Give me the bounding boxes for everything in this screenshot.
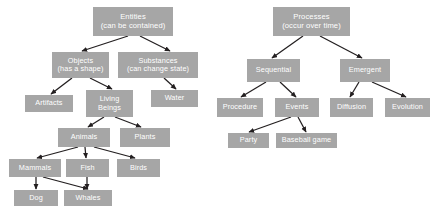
edge-animals-to-fish bbox=[85, 147, 86, 158]
edge-emergent-to-evolution bbox=[372, 82, 406, 97]
node-label-fish: Fish bbox=[66, 164, 109, 172]
node-baseball-game[interactable]: Baseball game bbox=[276, 133, 337, 148]
node-plants[interactable]: Plants bbox=[120, 128, 170, 147]
node-label-line1-emergent: Emergent bbox=[349, 65, 381, 74]
node-label-line2-entities: (can be contained) bbox=[94, 22, 172, 31]
node-label-events: Events bbox=[275, 103, 319, 111]
edge-substances-to-water bbox=[164, 78, 176, 89]
node-label-entities: Entities(can be contained) bbox=[93, 13, 173, 30]
node-label-animals: Animals bbox=[58, 133, 110, 141]
node-label-procedure: Procedure bbox=[217, 103, 263, 111]
node-label-objects: Objects(has a shape) bbox=[52, 57, 109, 73]
node-events[interactable]: Events bbox=[275, 98, 319, 117]
node-label-line1-evolution: Evolution bbox=[392, 102, 423, 111]
node-evolution[interactable]: Evolution bbox=[385, 98, 430, 117]
edge-animals-to-birds bbox=[94, 147, 135, 158]
node-label-birds: Birds bbox=[117, 164, 160, 172]
node-label-line1-water: Water bbox=[165, 93, 185, 102]
node-label-substances: Substances(can change state) bbox=[118, 57, 198, 73]
edge-living-beings-to-animals bbox=[88, 117, 104, 127]
node-emergent[interactable]: Emergent bbox=[340, 59, 390, 82]
node-label-line1-dog: Dog bbox=[29, 193, 43, 202]
node-label-line1-animals: Animals bbox=[71, 132, 98, 141]
node-label-party: Party bbox=[228, 136, 269, 144]
node-label-line1-sequential: Sequential bbox=[256, 65, 292, 74]
node-objects[interactable]: Objects(has a shape) bbox=[52, 52, 109, 78]
node-whales[interactable]: Whales bbox=[64, 190, 112, 206]
edge-objects-to-living-beings bbox=[90, 78, 112, 89]
node-procedure[interactable]: Procedure bbox=[217, 98, 263, 117]
edge-entities-to-substances bbox=[140, 36, 170, 51]
node-label-line1-fish: Fish bbox=[80, 163, 94, 172]
edge-processes-to-sequential bbox=[272, 36, 303, 58]
node-sequential[interactable]: Sequential bbox=[247, 59, 300, 82]
edge-entities-to-objects bbox=[82, 36, 128, 51]
node-substances[interactable]: Substances(can change state) bbox=[118, 52, 198, 78]
node-label-line2-substances: (can change state) bbox=[119, 65, 197, 73]
edge-objects-to-artifacts bbox=[51, 78, 72, 94]
diagram-canvas: Entities(can be contained)Objects(has a … bbox=[0, 0, 444, 214]
node-label-line2-objects: (has a shape) bbox=[53, 65, 108, 73]
edge-mammals-to-whales bbox=[43, 177, 88, 189]
node-label-diffusion: Diffusion bbox=[330, 103, 373, 111]
node-processes[interactable]: Processes(occur over time) bbox=[273, 7, 350, 36]
node-label-line1-party: Party bbox=[240, 135, 258, 144]
node-artifacts[interactable]: Artifacts bbox=[25, 95, 73, 112]
node-label-emergent: Emergent bbox=[340, 66, 390, 74]
node-label-line2-living-beings: Beings bbox=[87, 104, 132, 112]
node-label-line1-processes: Processes bbox=[293, 12, 329, 21]
node-label-plants: Plants bbox=[120, 133, 170, 141]
edge-events-to-party bbox=[249, 117, 291, 132]
node-diffusion[interactable]: Diffusion bbox=[330, 98, 373, 117]
node-entities[interactable]: Entities(can be contained) bbox=[93, 7, 173, 36]
edge-events-to-baseball-game bbox=[298, 117, 306, 132]
edge-emergent-to-diffusion bbox=[350, 82, 359, 97]
edge-sequential-to-events bbox=[280, 82, 296, 97]
node-label-line1-events: Events bbox=[286, 102, 309, 111]
node-animals[interactable]: Animals bbox=[58, 128, 110, 147]
node-label-line1-artifacts: Artifacts bbox=[35, 98, 62, 107]
node-label-mammals: Mammals bbox=[9, 164, 61, 172]
node-label-living-beings: LivingBeings bbox=[86, 95, 133, 111]
node-label-processes: Processes(occur over time) bbox=[273, 13, 350, 30]
node-label-line1-baseball-game: Baseball game bbox=[282, 135, 332, 144]
node-label-evolution: Evolution bbox=[385, 103, 430, 111]
node-fish[interactable]: Fish bbox=[66, 159, 109, 177]
edge-sequential-to-procedure bbox=[241, 82, 266, 97]
node-label-line1-mammals: Mammals bbox=[19, 163, 51, 172]
node-label-line1-whales: Whales bbox=[76, 193, 101, 202]
node-label-dog: Dog bbox=[14, 194, 58, 202]
node-label-baseball-game: Baseball game bbox=[276, 136, 337, 144]
edge-animals-to-mammals bbox=[37, 147, 78, 158]
node-label-whales: Whales bbox=[64, 194, 112, 202]
node-birds[interactable]: Birds bbox=[117, 159, 160, 177]
node-label-line1-living-beings: Living bbox=[100, 94, 120, 103]
node-label-line1-plants: Plants bbox=[135, 132, 156, 141]
node-living-beings[interactable]: LivingBeings bbox=[86, 90, 133, 117]
node-label-line2-processes: (occur over time) bbox=[274, 22, 349, 31]
node-water[interactable]: Water bbox=[151, 90, 198, 107]
node-label-line1-diffusion: Diffusion bbox=[337, 102, 366, 111]
node-party[interactable]: Party bbox=[228, 133, 269, 148]
edge-living-beings-to-plants bbox=[115, 117, 141, 127]
node-mammals[interactable]: Mammals bbox=[9, 159, 61, 177]
node-dog[interactable]: Dog bbox=[14, 190, 58, 206]
node-label-line1-entities: Entities bbox=[120, 12, 146, 21]
node-label-artifacts: Artifacts bbox=[25, 99, 73, 107]
node-label-sequential: Sequential bbox=[247, 66, 300, 74]
node-label-water: Water bbox=[151, 94, 198, 102]
edge-processes-to-emergent bbox=[320, 36, 362, 58]
node-label-line1-procedure: Procedure bbox=[223, 102, 258, 111]
node-label-line1-birds: Birds bbox=[130, 163, 147, 172]
